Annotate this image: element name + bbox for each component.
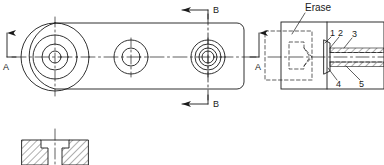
callout-5-label: 5 — [359, 79, 364, 89]
section-aa-thread-band-lower — [330, 62, 384, 67]
section-marker-b-bottom — [182, 95, 208, 104]
callout-3-leader — [344, 38, 352, 48]
erase-note-label: Erase — [305, 2, 332, 13]
callout-1-label: 1 — [330, 28, 335, 38]
plan-body-outline — [29, 23, 244, 89]
callout-5-leader — [346, 66, 360, 80]
section-a-left-label: A — [3, 62, 9, 72]
section-b-bottom-label: B — [213, 99, 219, 109]
section-b-top-label: B — [213, 5, 219, 15]
section-bb-hatch-left — [22, 140, 48, 165]
section-aa-thread-band-upper — [330, 48, 384, 53]
section-marker-b-top — [182, 10, 208, 19]
section-aa-hidden-block — [265, 31, 312, 80]
callout-4-label: 4 — [336, 79, 341, 89]
callout-2-label: 2 — [338, 28, 343, 38]
section-a-right-label: A — [255, 62, 261, 72]
section-a-a-view — [265, 13, 384, 89]
section-aa-hidden-pocket — [289, 42, 312, 69]
section-bb-hatch-right — [62, 140, 88, 165]
engineering-drawing-canvas: Erase A A B B 1 2 3 4 5 — [0, 0, 384, 165]
callout-2-leader — [330, 37, 339, 48]
section-b-b-view — [22, 129, 88, 165]
section-marker-a-left — [7, 33, 16, 57]
plan-view — [12, 14, 258, 100]
callout-3-label: 3 — [352, 29, 357, 39]
section-marker-a-right — [250, 33, 259, 57]
